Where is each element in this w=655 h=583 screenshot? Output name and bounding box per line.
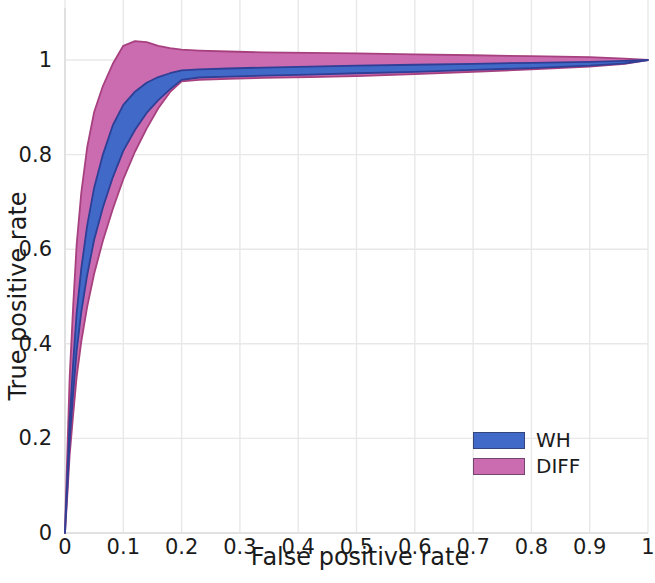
legend-swatch-wh [473, 432, 525, 449]
x-tick-label: 0.2 [165, 535, 198, 559]
legend-label-wh: WH [536, 430, 571, 450]
x-tick-label: 0.8 [515, 535, 548, 559]
legend-item-wh: WH [473, 430, 580, 450]
y-tick-label: 0.2 [0, 426, 52, 450]
legend-label-diff: DIFF [536, 456, 580, 476]
legend-item-diff: DIFF [473, 456, 580, 476]
chart-legend: WHDIFF [473, 430, 580, 476]
x-axis-title: False positive rate [251, 543, 469, 571]
y-tick-label: 0 [0, 521, 52, 545]
legend-swatch-diff [473, 458, 525, 475]
y-tick-label: 0.8 [0, 143, 52, 167]
y-tick-label: 1 [0, 48, 52, 72]
x-tick-label: 1 [641, 535, 654, 559]
x-tick-label: 0.1 [107, 535, 140, 559]
y-axis-title: True positive rate [4, 191, 32, 400]
x-tick-label: 0 [58, 535, 71, 559]
x-tick-label: 0.9 [573, 535, 606, 559]
